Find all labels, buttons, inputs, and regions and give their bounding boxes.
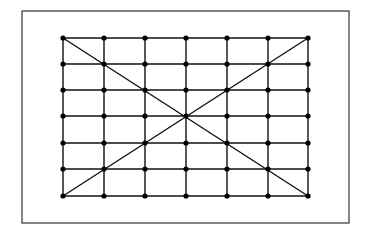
lattice-point <box>142 193 147 198</box>
lattice-point <box>265 35 270 40</box>
lattice-point <box>101 61 106 66</box>
lattice-point <box>142 140 147 145</box>
lattice-point <box>101 35 106 40</box>
lattice-point <box>101 193 106 198</box>
lattice-point <box>224 113 229 118</box>
lattice-point <box>265 140 270 145</box>
lattice-point <box>224 140 229 145</box>
lattice-point <box>183 61 188 66</box>
lattice-point <box>305 140 310 145</box>
lattice-point <box>60 61 65 66</box>
lattice-point <box>101 87 106 92</box>
lattice-point <box>224 166 229 171</box>
lattice-point <box>183 87 188 92</box>
lattice-point <box>183 35 188 40</box>
lattice-point <box>305 35 310 40</box>
lattice-point <box>101 166 106 171</box>
lattice-point <box>305 87 310 92</box>
lattice-point <box>101 140 106 145</box>
lattice-point <box>183 140 188 145</box>
lattice-point <box>60 113 65 118</box>
lattice-point <box>142 166 147 171</box>
lattice-point <box>183 193 188 198</box>
lattice-point <box>265 113 270 118</box>
lattice-point <box>224 193 229 198</box>
lattice-point <box>183 113 188 118</box>
lattice-point <box>265 61 270 66</box>
lattice-point <box>60 35 65 40</box>
lattice-point <box>305 193 310 198</box>
lattice-point <box>305 113 310 118</box>
lattice-point <box>305 61 310 66</box>
lattice-point <box>142 61 147 66</box>
lattice-point <box>183 166 188 171</box>
lattice-point <box>265 193 270 198</box>
lattice-point <box>224 35 229 40</box>
lattice-point <box>101 113 106 118</box>
lattice-point <box>142 35 147 40</box>
lattice-point <box>60 166 65 171</box>
lattice-point <box>60 140 65 145</box>
lattice-point <box>224 87 229 92</box>
lattice-point <box>265 87 270 92</box>
lattice-point <box>305 166 310 171</box>
lattice-point <box>224 61 229 66</box>
lattice-point <box>142 87 147 92</box>
lattice-diagram <box>0 0 369 235</box>
lattice-point <box>142 113 147 118</box>
lattice-point <box>265 166 270 171</box>
lattice-point <box>60 193 65 198</box>
lattice-point <box>60 87 65 92</box>
